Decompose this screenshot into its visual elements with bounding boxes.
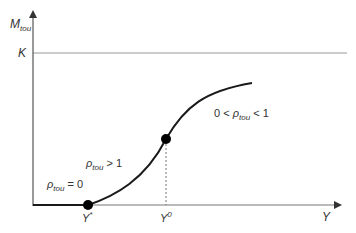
diagram-canvas: Mtou K Y Y* Y0 ρtou = 0 ρtou > 1 0 < ρto… xyxy=(0,0,356,233)
y-star-label: Y* xyxy=(82,210,93,224)
y0-label: Y0 xyxy=(160,210,172,224)
y-axis-label: Mtou xyxy=(10,17,32,33)
region-label-rho-zero: ρtou = 0 xyxy=(46,178,83,193)
x-axis-label: Y xyxy=(322,210,331,224)
y-star-point xyxy=(83,200,93,210)
region-label-rho-between: 0 < ρtou < 1 xyxy=(214,107,269,122)
region-label-rho-gt-one: ρtou > 1 xyxy=(85,157,122,172)
y0-point xyxy=(161,134,171,144)
k-label: K xyxy=(18,46,27,60)
